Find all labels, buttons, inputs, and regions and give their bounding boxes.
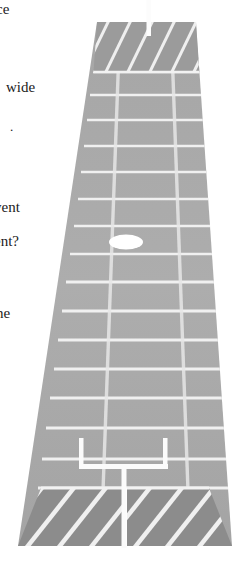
goalpost-upright-right [163,438,168,468]
football-icon [109,235,143,250]
football-field-illustration [0,0,247,567]
far-goalpost [147,0,152,36]
goalpost-upright-left [79,438,84,468]
goalpost-base-post [122,468,127,548]
textbook-page: ce wide . vent ent? ne [0,0,247,567]
field-svg [0,0,247,567]
